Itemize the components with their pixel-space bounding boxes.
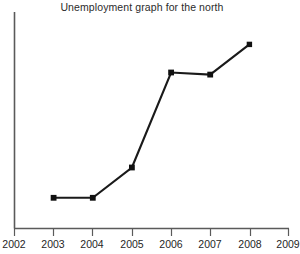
x-axis-ticks [15, 229, 289, 237]
data-point-2008 [247, 42, 252, 47]
x-tick-label-2008: 2008 [230, 238, 270, 250]
data-point-2006 [168, 70, 174, 76]
x-tick-label-2009: 2009 [268, 238, 300, 250]
x-tick-label-2007: 2007 [190, 238, 230, 250]
data-point-2007 [207, 72, 213, 78]
x-tick-label-2006: 2006 [151, 238, 191, 250]
data-line-unemployment [54, 44, 250, 197]
x-tick-label-2005: 2005 [112, 238, 152, 250]
data-point-2004 [90, 195, 96, 201]
data-point-2005 [129, 165, 135, 171]
x-tick-label-2004: 2004 [72, 238, 112, 250]
x-tick-label-2002: 2002 [0, 238, 34, 250]
data-point-2003 [51, 195, 57, 201]
unemployment-line-chart: Unemployment graph for the north [0, 0, 300, 254]
x-tick-label-2003: 2003 [33, 238, 73, 250]
chart-plot-area [0, 0, 300, 254]
